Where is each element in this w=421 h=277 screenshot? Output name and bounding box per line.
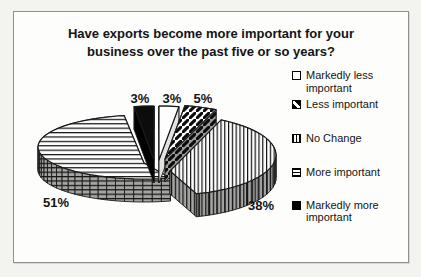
legend-key-no-change-icon — [292, 134, 301, 143]
chart-title-line2: business over the past five or so years? — [61, 43, 361, 61]
legend-label-no-change: No Change — [306, 132, 362, 145]
legend-item-no-change: No Change — [292, 132, 410, 145]
legend-label-more: More important — [306, 166, 380, 179]
legend-item-more: More important — [292, 166, 410, 179]
legend-label-markedly-more: Markedly more important — [306, 199, 410, 224]
legend-key-more-icon — [292, 168, 301, 177]
chart-legend: Markedly less important Less important N… — [292, 69, 410, 224]
legend-label-less: Less important — [306, 98, 378, 111]
legend-item-markedly-more: Markedly more important — [292, 199, 410, 224]
legend-item-markedly-less: Markedly less important — [292, 69, 410, 94]
legend-label-markedly-less: Markedly less important — [306, 69, 410, 94]
chart-title: Have exports become more important for y… — [61, 25, 361, 61]
legend-key-markedly-less-icon — [292, 71, 301, 80]
scanned-page: Have exports become more important for y… — [0, 0, 421, 277]
legend-key-markedly-more-icon — [292, 201, 301, 210]
legend-item-less: Less important — [292, 98, 410, 111]
legend-key-less-icon — [292, 100, 301, 109]
chart-frame: Have exports become more important for y… — [13, 11, 409, 263]
chart-title-line1: Have exports become more important for y… — [61, 25, 361, 43]
